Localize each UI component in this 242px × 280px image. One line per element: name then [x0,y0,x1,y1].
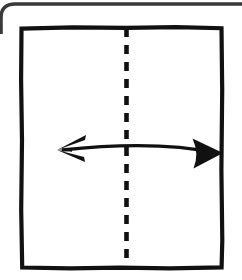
diagram-canvas [0,0,242,280]
origami-diagram-figure: Origami fold step diagram Square sheet o… [0,0,242,280]
